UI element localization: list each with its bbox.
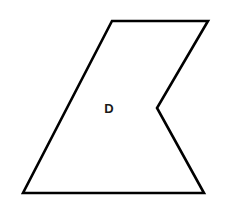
figure-canvas: D	[0, 0, 228, 212]
shape-label-d: D	[104, 101, 113, 116]
polygon-shape-d	[23, 21, 208, 193]
polygon-figure: D	[0, 0, 228, 212]
